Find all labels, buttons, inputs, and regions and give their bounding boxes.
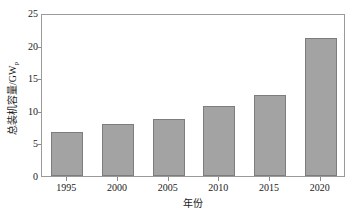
y-axis-tick-label: 25: [14, 9, 38, 19]
x-axis-tick-mark: [168, 177, 169, 181]
y-axis-tick-label: 0: [14, 172, 38, 182]
bar: [203, 106, 235, 176]
x-axis-tick-label: 1995: [41, 182, 91, 193]
x-axis-tick-label: 2010: [193, 182, 243, 193]
bar: [153, 119, 185, 176]
bar: [102, 124, 134, 176]
x-axis-tick-mark: [117, 177, 118, 181]
y-axis-tick-labels: 0510152025: [14, 0, 38, 218]
bar: [254, 95, 286, 177]
x-axis-tick-mark: [66, 177, 67, 181]
y-axis-tick-label: 5: [14, 139, 38, 149]
y-axis-tick-label: 15: [14, 74, 38, 84]
bar-chart: 总装机容量/GWp 0510152025 1995200020052010201…: [0, 0, 354, 218]
bar: [305, 38, 337, 176]
x-axis-tick-mark: [269, 177, 270, 181]
bars-layer: [42, 15, 344, 176]
bar: [51, 132, 83, 176]
y-axis-tick-label: 20: [14, 42, 38, 52]
x-axis-title: 年份: [41, 198, 345, 209]
x-axis-tick-label: 2000: [92, 182, 142, 193]
x-axis-tick-label: 2020: [295, 182, 345, 193]
plot-area: [41, 14, 345, 177]
y-axis-tick-label: 10: [14, 107, 38, 117]
x-axis-tick-label: 2005: [143, 182, 193, 193]
x-axis-tick-mark: [320, 177, 321, 181]
x-axis-tick-label: 2015: [244, 182, 294, 193]
x-axis-tick-mark: [218, 177, 219, 181]
